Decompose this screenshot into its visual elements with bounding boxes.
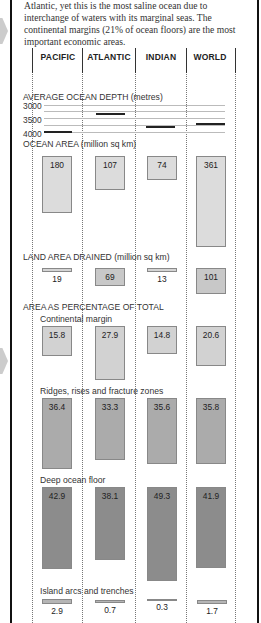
bar-deep-atlantic: 38.1 — [95, 487, 125, 560]
value-island-world: 1.7 — [194, 606, 230, 616]
sub-label-deep-ocean-floor: Deep ocean floor — [40, 475, 105, 485]
bar-ridges-indian: 35.6 — [147, 398, 177, 464]
column-divider — [235, 52, 236, 623]
bar-land-area-atlantic: 69 — [95, 268, 125, 286]
depth-marker-world — [196, 123, 225, 125]
column-divider — [82, 52, 83, 623]
page-edge-tab — [0, 348, 8, 374]
bar-continental-indian: 14.8 — [147, 326, 177, 354]
bar-island-pacific — [42, 599, 72, 604]
bar-continental-world: 20.6 — [196, 326, 226, 366]
sub-label-island-arcs: Island arcs and trenches — [40, 586, 134, 596]
bar-island-world — [197, 600, 227, 604]
bar-continental-atlantic: 27.9 — [95, 326, 125, 380]
bar-island-indian — [147, 599, 177, 601]
value-island-atlantic: 0.7 — [92, 605, 128, 615]
column-header-pacific: PACIFIC — [32, 52, 84, 62]
depth-marker-pacific — [44, 131, 72, 133]
column-header-atlantic: ATLANTIC — [83, 52, 135, 62]
value-land-area-pacific: 19 — [39, 274, 75, 284]
frame-right-border — [257, 0, 259, 623]
depth-tick-3000: 3000 — [23, 101, 42, 111]
intro-paragraph: Atlantic, yet this is the most saline oc… — [24, 0, 254, 48]
bar-ridges-world: 35.8 — [196, 398, 226, 464]
section-label-ocean-area: OCEAN AREA (million sq km) — [23, 139, 136, 149]
depth-tick-4000: 4000 — [23, 129, 42, 139]
bar-continental-pacific: 15.8 — [42, 326, 72, 356]
column-header-indian: INDIAN — [135, 52, 187, 62]
page-edge-tab — [0, 18, 8, 44]
depth-gridline — [44, 105, 225, 106]
section-label-depth: AVERAGE OCEAN DEPTH (metres) — [23, 92, 163, 102]
bar-land-area-world: 101 — [196, 268, 226, 294]
depth-marker-atlantic — [96, 113, 125, 115]
column-divider — [135, 52, 136, 623]
frame-left-border — [10, 0, 12, 623]
bar-deep-world: 41.9 — [196, 487, 226, 568]
bar-deep-indian: 49.3 — [147, 487, 177, 581]
bar-deep-pacific: 42.9 — [42, 487, 72, 569]
column-header-world: WORLD — [184, 52, 236, 62]
bar-ocean-area-pacific: 180 — [42, 156, 72, 213]
section-label-percentage: AREA AS PERCENTAGE OF TOTAL — [23, 302, 164, 312]
sub-label-ridges: Ridges, rises and fracture zones — [40, 386, 163, 396]
depth-gridline — [44, 118, 225, 119]
bar-land-area-pacific — [42, 268, 72, 272]
value-land-area-indian: 13 — [144, 274, 180, 284]
sub-label-continental-margin: Continental margin — [40, 314, 112, 324]
depth-marker-indian — [146, 126, 175, 128]
value-island-pacific: 2.9 — [39, 606, 75, 616]
bar-ocean-area-atlantic: 107 — [95, 156, 125, 190]
depth-tick-3500: 3500 — [23, 115, 42, 125]
bar-ridges-pacific: 36.4 — [42, 398, 72, 469]
section-label-land-area: LAND AREA DRAINED (million sq km) — [23, 252, 170, 262]
depth-gridline — [44, 111, 225, 112]
bar-ridges-atlantic: 33.3 — [95, 398, 125, 460]
bar-ocean-area-world: 361 — [196, 156, 226, 247]
bar-ocean-area-indian: 74 — [147, 156, 177, 180]
depth-gridline — [44, 125, 225, 126]
bar-land-area-indian — [147, 268, 177, 272]
value-island-indian: 0.3 — [144, 602, 180, 612]
bar-island-atlantic — [95, 600, 125, 603]
column-divider — [186, 52, 187, 623]
